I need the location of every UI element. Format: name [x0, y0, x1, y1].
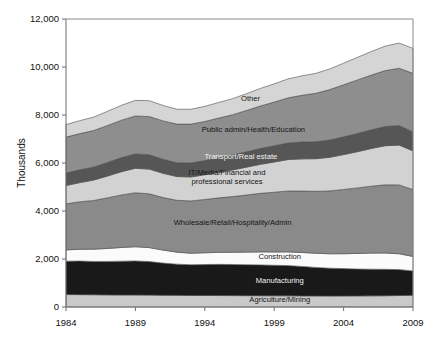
series-label-4: professional services [192, 177, 263, 186]
series-label-7: Other [241, 94, 260, 103]
x-tick-label-1: 1989 [125, 317, 146, 328]
y-axis-title: Thousands [16, 138, 27, 187]
y-tick-label-5: 2,000 [35, 253, 59, 264]
area-series-0 [66, 295, 413, 307]
y-tick-label-2: 8,000 [35, 109, 59, 120]
y-tick-label-1: 10,000 [30, 61, 59, 72]
y-tick-label-3: 6,000 [35, 157, 59, 168]
y-tick-label-4: 4,000 [35, 205, 59, 216]
series-label-5: Transport/Real estate [205, 152, 278, 161]
series-label-1: Manufacturing [256, 276, 304, 285]
y-tick-label-0: 12,000 [30, 13, 59, 24]
chart-canvas: Agriculture/MiningManufacturingConstruct… [0, 0, 443, 338]
series-label-0: Agriculture/Mining [249, 295, 310, 304]
x-tick-label-5: 2009 [402, 317, 423, 328]
stacked-area-chart: Agriculture/MiningManufacturingConstruct… [0, 0, 443, 338]
x-tick-label-2: 1994 [194, 317, 215, 328]
x-tick-label-4: 2004 [333, 317, 354, 328]
series-label-3: Wholesale/Retail/Hospitality/Admin [174, 218, 292, 227]
series-label-4: IT/Media/Financial and [189, 168, 266, 177]
y-tick-label-6: 0 [54, 301, 59, 312]
x-tick-label-0: 1984 [55, 317, 76, 328]
series-label-6: Public admin/Health/Education [202, 125, 305, 134]
x-tick-label-3: 1999 [264, 317, 285, 328]
series-label-2: Construction [258, 252, 301, 261]
